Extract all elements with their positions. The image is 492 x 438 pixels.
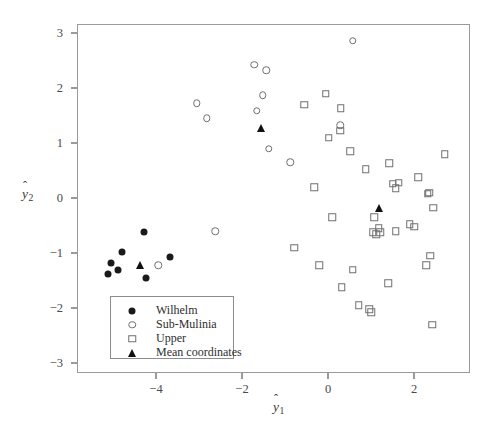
y-axis-tick (71, 362, 77, 363)
y-axis-label-hat: ˆ (23, 180, 27, 192)
x-axis-tick-label: 2 (411, 382, 417, 397)
legend-box: WilhelmSub-MuliniaUpperMean coordinates (110, 296, 234, 359)
scatter-plot-figure: −4−2023210−1−2−3 ˆy1 ˆy2 WilhelmSub-Muli… (0, 0, 492, 438)
x-axis-tick (327, 373, 328, 379)
legend-item-wilhelm[interactable]: Wilhelm (111, 303, 233, 318)
x-axis-tick (155, 373, 156, 379)
x-axis-label: ˆy1 (273, 399, 284, 416)
y-axis-tick (71, 87, 77, 88)
legend-label: Sub-Mulinia (156, 317, 217, 332)
legend-label: Mean coordinates (156, 345, 242, 360)
y-axis-tick (71, 142, 77, 143)
y-axis-label-symbol: ˆy (22, 186, 28, 202)
x-axis-label-symbol: ˆy (273, 399, 279, 415)
x-axis-tick (241, 373, 242, 379)
y-axis-tick (71, 307, 77, 308)
y-axis-tick-label: −3 (31, 356, 63, 371)
legend-marker-icon (128, 335, 136, 343)
y-axis-tick-label: 3 (31, 26, 63, 41)
legend-label: Upper (156, 331, 186, 346)
y-axis-tick (71, 197, 77, 198)
y-axis-label: ˆy2 (22, 186, 33, 203)
legend-marker-icon (129, 307, 136, 314)
x-axis-tick-label: −4 (149, 382, 162, 397)
x-axis-tick-label: −2 (235, 382, 248, 397)
x-axis-tick (413, 373, 414, 379)
y-axis-tick-label: −2 (31, 301, 63, 316)
x-axis-label-hat: ˆ (274, 393, 278, 405)
legend-label: Wilhelm (156, 303, 198, 318)
legend-marker-icon (128, 321, 136, 329)
y-axis-tick-label: 1 (31, 136, 63, 151)
y-axis-tick-label: −1 (31, 246, 63, 261)
legend-item-sub-mulinia[interactable]: Sub-Mulinia (111, 317, 233, 332)
y-axis-tick (71, 252, 77, 253)
x-axis-label-subscript: 1 (279, 405, 284, 416)
x-axis-tick-label: 0 (325, 382, 331, 397)
y-axis-label-subscript: 2 (28, 192, 33, 203)
y-axis-tick-label: 0 (31, 191, 63, 206)
legend-marker-icon (128, 349, 136, 357)
legend-item-upper[interactable]: Upper (111, 331, 233, 346)
legend-item-mean-coordinates[interactable]: Mean coordinates (111, 345, 233, 360)
y-axis-tick-label: 2 (31, 81, 63, 96)
y-axis-tick (71, 32, 77, 33)
